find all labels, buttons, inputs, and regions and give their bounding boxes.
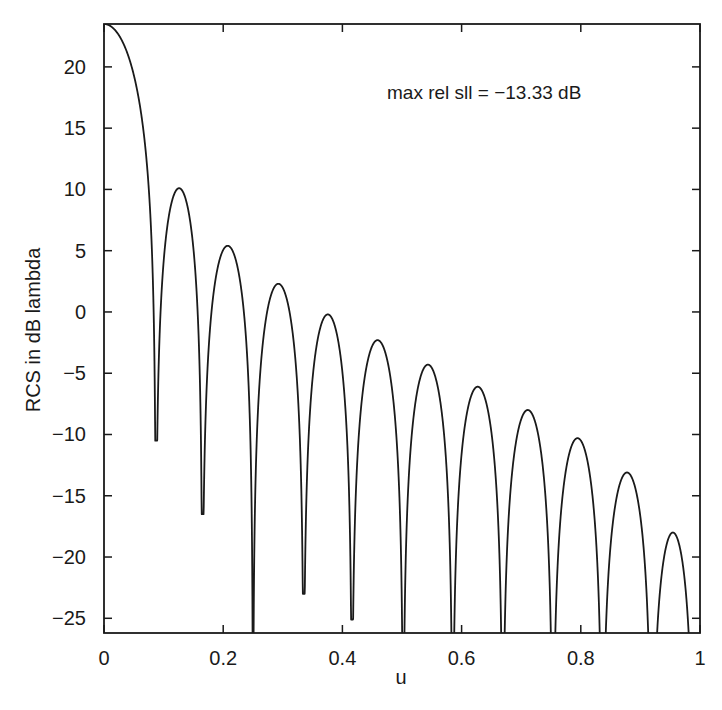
- x-tick-label: 0: [98, 647, 109, 669]
- y-tick-label: −20: [52, 546, 86, 568]
- x-tick-label: 1: [694, 647, 705, 669]
- y-tick-label: 5: [75, 240, 86, 262]
- y-tick-label: −15: [52, 485, 86, 507]
- x-tick-label: 0.8: [567, 647, 595, 669]
- y-axis-label: RCS in dB lambda: [22, 247, 44, 412]
- x-tick-label: 0.6: [448, 647, 476, 669]
- y-tick-label: −25: [52, 607, 86, 629]
- y-tick-label: −10: [52, 423, 86, 445]
- rcs-curve: [104, 24, 700, 670]
- x-tick-label: 0.4: [328, 647, 356, 669]
- rcs-chart: 20151050−5−10−15−20−25 00.20.40.60.81 ma…: [0, 0, 722, 710]
- max-sll-annotation: max rel sll = −13.33 dB: [387, 82, 581, 103]
- y-tick-label: 0: [75, 301, 86, 323]
- x-tick-label: 0.2: [209, 647, 237, 669]
- y-axis-ticks: 20151050−5−10−15−20−25: [52, 56, 700, 629]
- y-tick-label: −5: [63, 362, 86, 384]
- y-tick-label: 20: [64, 56, 86, 78]
- y-tick-label: 10: [64, 178, 86, 200]
- x-axis-label: u: [395, 666, 406, 688]
- y-tick-label: 15: [64, 117, 86, 139]
